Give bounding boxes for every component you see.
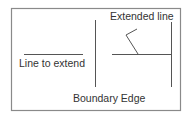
- boundary-edge-label: Boundary Edge: [73, 92, 145, 104]
- extended-line-leader: [126, 29, 138, 54]
- extended-line-label: Extended line: [110, 10, 174, 22]
- line-to-extend-label: Line to extend: [19, 57, 85, 69]
